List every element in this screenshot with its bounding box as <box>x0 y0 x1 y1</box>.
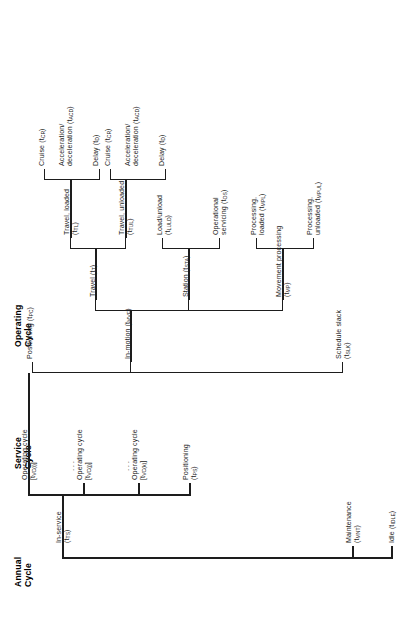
bracket-annual-spine <box>62 557 392 559</box>
node-cruise-2: Cruise (tCR) <box>104 128 113 166</box>
node-in-service-symbol: (tTS) <box>63 511 72 543</box>
node-idle-label: Idle (tIDLE) <box>388 511 397 543</box>
node-maintenance-label: Maintenance <box>345 501 353 543</box>
node-operational-servicing-label: Operational <box>212 190 220 235</box>
bracket-station-tick-load-unload <box>162 238 163 249</box>
bracket-station-spine <box>162 248 220 249</box>
node-processing-loaded-symbol: loaded (tMPL) <box>258 194 267 236</box>
bracket-station-tick-op-servicing <box>219 238 220 249</box>
node-accel-decel-1-label: Acceleration/ <box>58 106 66 166</box>
node-travel-loaded-symbol: (tTL) <box>71 189 80 235</box>
bracket-mp-tick-unloaded <box>313 238 314 249</box>
node-travel-unloaded: Travel, unloaded (tTUL) <box>118 181 136 235</box>
node-operating-cycle-k-label: Operating cycle <box>131 429 139 480</box>
node-load-unload-symbol: (tLULD) <box>164 195 173 235</box>
node-delay-2: Delay (tD) <box>158 135 167 166</box>
ellipsis-1: ... <box>68 460 76 471</box>
bracket-in-motion-tick-movement-processing <box>282 300 283 311</box>
connector-travel-to-children <box>95 249 97 300</box>
bracket-service-tick-positioning <box>189 483 191 496</box>
node-processing-unloaded: Processing, unloaded (tMPUL) <box>306 182 324 235</box>
bracket-in-motion-tick-station <box>188 300 189 311</box>
node-accel-decel-1: Acceleration/ deceleration (tACD) <box>58 106 76 166</box>
node-delay-2-label: Delay (tD) <box>158 135 167 166</box>
bracket-mp-tick-loaded <box>256 238 257 249</box>
bracket-tl-tick-delay <box>99 169 100 180</box>
node-operating-cycle-i: Operating cycle [tVC(i)] <box>21 429 39 480</box>
node-in-service: In-service (tTS) <box>55 511 73 543</box>
node-cruise-1-label: Cruise (tCR) <box>38 128 47 166</box>
node-station-label: Station (tSTA) <box>182 256 191 297</box>
bracket-travel-unloaded-spine <box>110 179 166 180</box>
bracket-operating-tick-slack <box>342 362 343 373</box>
figure-root: Annual Cycle Service Cycle Operating Cyc… <box>0 0 411 619</box>
bracket-service-tick-oc-i <box>28 483 30 496</box>
node-in-motion-label: In-motion (tMVE) <box>124 308 133 359</box>
connector-movement-processing-to-children <box>282 249 284 300</box>
node-processing-loaded: Processing, loaded (tMPL) <box>250 194 268 236</box>
bracket-travel-tick-unloaded <box>125 238 126 249</box>
node-operating-cycle-j: Operating cycle [tVC(j)] <box>76 429 94 480</box>
node-operating-cycle-i-symbol: [tVC(i)] <box>29 429 38 480</box>
bracket-operating-spine <box>32 372 343 373</box>
connector-in-motion-to-children <box>130 311 132 362</box>
node-operating-cycle-j-label: Operating cycle <box>76 429 84 480</box>
connector-travel-loaded-to-children <box>70 180 72 238</box>
diagram-canvas: Annual Cycle Service Cycle Operating Cyc… <box>0 0 411 619</box>
bracket-service-spine <box>28 494 190 496</box>
node-accel-decel-2-label: Acceleration/ <box>124 106 132 166</box>
node-maintenance-symbol: (tMNT) <box>353 501 362 543</box>
node-travel: Travel (tT) <box>89 265 98 297</box>
bracket-tul-tick-delay <box>165 169 166 180</box>
node-load-unload-label: Load/unload <box>156 195 164 235</box>
node-positioning-ps: Positioning (tPS) <box>182 444 200 480</box>
node-schedule-slack: Schedule slack (tSLK) <box>335 310 353 359</box>
node-processing-unloaded-symbol: unloaded (tMPUL) <box>314 182 323 235</box>
bracket-travel-loaded-spine <box>44 179 100 180</box>
node-maintenance: Maintenance (tMNT) <box>345 501 363 543</box>
node-cruise-1: Cruise (tCR) <box>38 128 47 166</box>
node-movement-processing: Movement processing (tMP) <box>275 226 293 297</box>
node-travel-unloaded-symbol: (tTUL) <box>126 181 135 235</box>
node-movement-processing-symbol: (tMP) <box>283 226 292 297</box>
node-idle: Idle (tIDLE) <box>388 511 397 543</box>
bracket-annual-tick-maintenance <box>352 546 354 559</box>
node-accel-decel-2-symbol: deceleration (tACD) <box>132 106 141 166</box>
node-positioning-pc-label: Positioning (tPC) <box>26 307 35 359</box>
node-accel-decel-2: Acceleration/ deceleration (tACD) <box>124 106 142 166</box>
bracket-tul-tick-cruise <box>110 169 111 180</box>
node-travel-label: Travel (tT) <box>89 265 98 297</box>
bracket-movement-processing-spine <box>256 248 314 249</box>
node-in-motion: In-motion (tMVE) <box>124 308 133 359</box>
node-station: Station (tSTA) <box>182 256 191 297</box>
node-load-unload: Load/unload (tLULD) <box>156 195 174 235</box>
node-cruise-2-label: Cruise (tCR) <box>104 128 113 166</box>
node-accel-decel-1-symbol: deceleration (tACD) <box>66 106 75 166</box>
bracket-operating-tick-in-motion <box>130 362 131 373</box>
node-processing-loaded-label: Processing, <box>250 194 258 236</box>
node-schedule-slack-symbol: (tSLK) <box>343 310 352 359</box>
node-positioning-pc: Positioning (tPC) <box>26 307 35 359</box>
bracket-travel-spine <box>70 248 126 249</box>
bracket-in-motion-tick-travel <box>95 300 96 311</box>
bracket-service-tick-oc-j <box>83 483 85 496</box>
bracket-annual-tick-idle <box>391 546 393 559</box>
node-delay-1: Delay (tD) <box>92 135 101 166</box>
ellipsis-2: ... <box>123 460 131 471</box>
bracket-service-tick-oc-k <box>138 483 140 496</box>
node-operational-servicing: Operational servicing (tOS) <box>212 190 230 235</box>
connector-in-service-to-service-cycle <box>62 496 64 546</box>
node-schedule-slack-label: Schedule slack <box>335 310 343 359</box>
connector-travel-unloaded-to-children <box>125 180 127 238</box>
bracket-operating-tick-positioning <box>32 362 33 373</box>
node-travel-loaded: Travel, loaded (tTL) <box>63 189 81 235</box>
node-positioning-ps-symbol: (tPS) <box>190 444 199 480</box>
bracket-travel-tick-loaded <box>70 238 71 249</box>
node-delay-1-label: Delay (tD) <box>92 135 101 166</box>
node-operating-cycle-k: Operating cycle [tVC(k)] <box>131 429 149 480</box>
connector-station-to-children <box>188 249 190 300</box>
node-processing-unloaded-label: Processing, <box>306 182 314 235</box>
bracket-annual-tick-in-service <box>62 546 64 559</box>
connector-operating-cycle-to-op-bracket <box>28 373 30 483</box>
bracket-tl-tick-cruise <box>44 169 45 180</box>
